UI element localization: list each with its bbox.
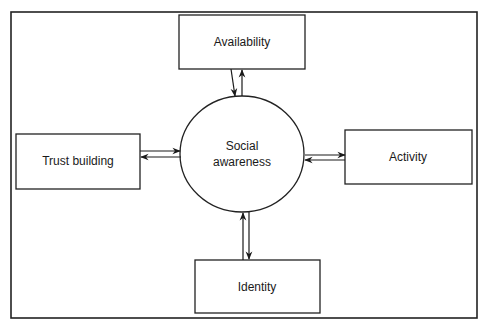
availability-label: Availability <box>214 35 270 49</box>
edge-identity <box>243 212 249 260</box>
social-awareness-node: Social awareness <box>180 96 304 212</box>
activity-node: Activity <box>345 130 472 184</box>
diagram-canvas: Social awareness Availability Trust buil… <box>0 0 485 322</box>
availability-node: Availability <box>179 15 305 69</box>
trust-building-label: Trust building <box>42 154 114 168</box>
activity-label: Activity <box>389 150 427 164</box>
edge-trust-building <box>140 151 181 157</box>
social-awareness-label-line1: Social <box>226 139 259 153</box>
trust-building-node: Trust building <box>16 134 140 189</box>
identity-node: Identity <box>195 260 320 313</box>
social-awareness-circle <box>180 96 304 212</box>
social-awareness-label-line2: awareness <box>213 155 271 169</box>
arrow-availability-to-center <box>231 69 235 96</box>
identity-label: Identity <box>238 280 277 294</box>
edge-availability <box>231 69 242 96</box>
edge-activity <box>305 155 345 160</box>
